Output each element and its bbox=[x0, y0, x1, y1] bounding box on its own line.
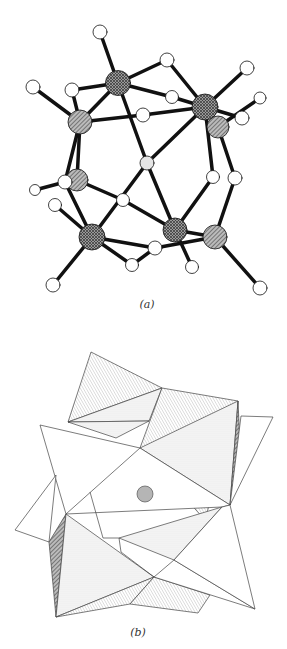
atom-large bbox=[106, 71, 131, 96]
caption-b: (b) bbox=[108, 626, 168, 639]
atom-center bbox=[140, 156, 154, 170]
atom-large bbox=[163, 218, 187, 242]
atom-large bbox=[192, 94, 218, 120]
atom-large bbox=[203, 225, 227, 249]
atom-large bbox=[79, 224, 105, 250]
atom-large bbox=[68, 110, 92, 134]
caption-a: (a) bbox=[117, 298, 177, 311]
panel-a-molecule bbox=[26, 25, 267, 295]
figure-canvas bbox=[0, 0, 287, 649]
panel-b-polyhedra bbox=[15, 352, 273, 617]
center-atom bbox=[137, 486, 153, 502]
